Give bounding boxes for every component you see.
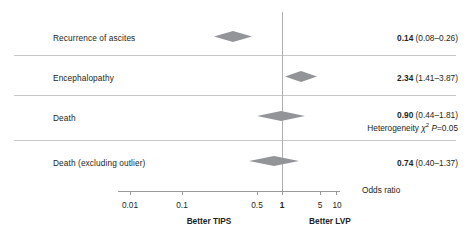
estimate-value-1: 0.14 (397, 33, 413, 43)
estimate-value-2: 2.34 (397, 73, 413, 83)
x-tick-4 (320, 191, 321, 195)
row-result-death: 0.90 (0.44–1.81) (397, 110, 458, 120)
row-label-death: Death (53, 113, 76, 123)
x-tick-label-3: 1 (280, 200, 285, 210)
arm-label-right: Better LVP (309, 216, 351, 226)
row-label-death-excluding-outlier: Death (excluding outlier) (53, 158, 145, 168)
diamond-death (257, 111, 305, 121)
estimate-value-4: 0.74 (397, 158, 413, 168)
x-tick-label-1: 0.1 (176, 200, 188, 210)
x-tick-label-5: 10 (332, 200, 341, 210)
row-separator-1 (14, 55, 456, 56)
x-axis-title: Odds ratio (362, 185, 400, 195)
chi-exponent: 2 (426, 122, 429, 128)
estimate-ci-4: (0.40–1.37) (416, 158, 458, 168)
x-tick-3 (282, 189, 283, 195)
x-tick-0 (130, 191, 131, 195)
forest-plot: Recurrence of ascites 0.14 (0.08–0.26) E… (0, 0, 470, 239)
estimate-value-3: 0.90 (397, 110, 413, 120)
row-result-recurrence-of-ascites: 0.14 (0.08–0.26) (397, 33, 458, 43)
diamond-death-excluding-outlier (249, 156, 299, 166)
x-tick-5 (336, 191, 337, 195)
x-axis-line (118, 191, 340, 192)
x-tick-2 (257, 191, 258, 195)
diamond-recurrence-of-ascites (214, 31, 252, 42)
heterogeneity-prefix: Heterogeneity (367, 123, 421, 133)
estimate-ci-2: (1.41–3.87) (416, 73, 458, 83)
row-label-encephalopathy: Encephalopathy (53, 73, 114, 83)
arm-label-left: Better TIPS (187, 216, 232, 226)
diamond-encephalopathy (285, 71, 317, 82)
p-value: =0.05 (437, 123, 458, 133)
x-tick-1 (182, 191, 183, 195)
row-result-death-excluding-outlier: 0.74 (0.40–1.37) (397, 158, 458, 168)
row-separator-2 (14, 95, 456, 96)
x-tick-label-2: 0.5 (251, 200, 263, 210)
x-tick-label-0: 0.01 (122, 200, 138, 210)
estimate-ci-3: (0.44–1.81) (416, 110, 458, 120)
row-result-encephalopathy: 2.34 (1.41–3.87) (397, 73, 458, 83)
heterogeneity-annotation: Heterogeneity χ2 P=0.05 (367, 122, 458, 133)
row-label-recurrence-of-ascites: Recurrence of ascites (53, 33, 135, 43)
row-separator-3 (14, 140, 456, 141)
x-tick-label-4: 5 (318, 200, 323, 210)
estimate-ci-1: (0.08–0.26) (416, 33, 458, 43)
